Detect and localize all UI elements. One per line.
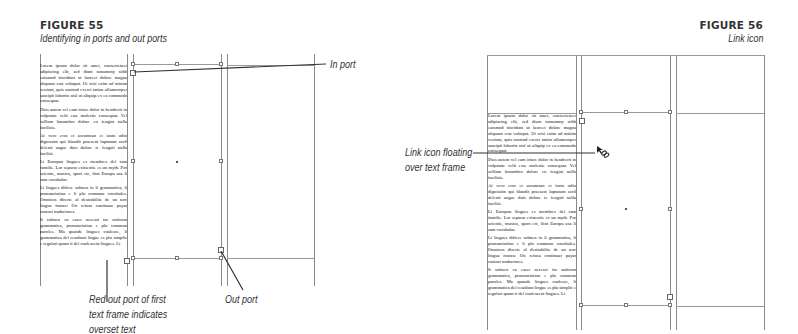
callout-link-icon: Link icon floating over text frame — [405, 145, 472, 175]
leader-lines — [0, 0, 798, 334]
